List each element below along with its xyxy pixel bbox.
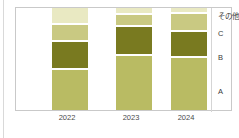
bar-segment-other-2022[interactable] (52, 8, 88, 24)
x-tick-2023: 2023 (111, 113, 151, 122)
legend-label-b: B (218, 53, 223, 62)
bar-segment-a-2024[interactable] (171, 57, 207, 110)
legend-label-c: C (218, 29, 223, 38)
bar-segment-c-2022[interactable] (52, 24, 88, 40)
chart-screenshot: その他 C B A 2022 2023 2024 (0, 0, 239, 138)
plot-area: その他 C B A (15, 7, 232, 111)
x-tick-2024: 2024 (166, 113, 206, 122)
legend-label-other: その他 (218, 12, 239, 21)
legend-label-a: A (218, 87, 223, 96)
bar-segment-c-2024[interactable] (171, 13, 207, 31)
bar-segment-a-2023[interactable] (116, 55, 152, 110)
stacked-bar-2022[interactable] (52, 8, 88, 110)
bar-segment-c-2023[interactable] (116, 14, 152, 26)
page-left-rule (3, 0, 4, 138)
x-axis-labels: 2022 2023 2024 (15, 113, 232, 129)
stacked-bar-2023[interactable] (116, 8, 152, 110)
bar-segment-b-2023[interactable] (116, 26, 152, 55)
stacked-bar-2024[interactable] (171, 8, 207, 110)
bar-segment-b-2024[interactable] (171, 31, 207, 57)
category-legend: その他 C B A (212, 8, 239, 112)
bar-segment-a-2022[interactable] (52, 69, 88, 110)
x-tick-2022: 2022 (47, 113, 87, 122)
bar-segment-b-2022[interactable] (52, 41, 88, 70)
